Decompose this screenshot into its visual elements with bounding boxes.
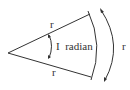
arrowhead-up-icon xyxy=(100,8,104,13)
diagram-canvas: r r r I radian xyxy=(0,0,130,90)
arc-length-arrow xyxy=(101,10,114,80)
lower-radius-label: r xyxy=(52,66,56,78)
angle-arrowhead-up-icon xyxy=(48,34,51,38)
radian-diagram: r r r I radian xyxy=(0,0,130,90)
angle-label: I radian xyxy=(56,40,93,52)
arc-length-label: r xyxy=(122,40,126,52)
angle-arc xyxy=(49,35,52,58)
upper-radius-label: r xyxy=(50,18,54,30)
